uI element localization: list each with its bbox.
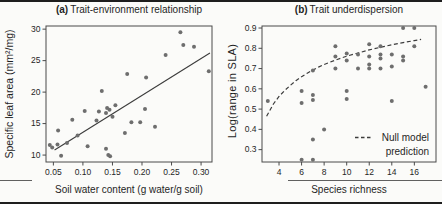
x-tick-label: 0.20 xyxy=(134,167,151,177)
data-point xyxy=(56,129,60,133)
data-point xyxy=(345,59,349,63)
data-point xyxy=(138,120,142,124)
data-point xyxy=(83,109,87,113)
data-point xyxy=(266,99,270,103)
data-point xyxy=(379,44,383,48)
data-point xyxy=(390,52,394,56)
y-tick-label: 0.9 xyxy=(245,23,257,33)
y-tick-label: 25 xyxy=(31,55,41,65)
data-point xyxy=(65,141,69,145)
data-point xyxy=(311,93,315,97)
x-tick-label: 0.15 xyxy=(104,167,121,177)
x-tick-label: 14 xyxy=(387,167,397,177)
data-point xyxy=(424,85,428,89)
y-tick-label: 0.6 xyxy=(245,84,257,94)
data-point xyxy=(379,52,383,56)
x-tick-label: 0.30 xyxy=(193,167,210,177)
y-tick-label: 20 xyxy=(31,87,41,97)
data-point xyxy=(100,89,104,93)
data-point xyxy=(311,138,315,142)
data-point xyxy=(113,103,117,107)
data-point xyxy=(311,69,315,73)
y-tick-label: 0.5 xyxy=(245,104,257,114)
plot-box xyxy=(46,26,212,162)
data-point xyxy=(322,127,326,131)
x-tick-label: 4 xyxy=(277,167,282,177)
data-point xyxy=(345,51,349,55)
data-point xyxy=(95,118,99,122)
data-point xyxy=(401,59,405,63)
x-tick-label: 0.05 xyxy=(45,167,62,177)
data-point xyxy=(367,63,371,67)
y-tick-label: 0.3 xyxy=(245,144,257,154)
data-point xyxy=(111,115,115,119)
data-point xyxy=(401,26,405,30)
data-point xyxy=(333,44,337,48)
legend-label-line1: Null model xyxy=(382,132,429,143)
data-point xyxy=(401,54,405,58)
data-point xyxy=(86,144,90,148)
x-tick-label: 0.10 xyxy=(75,167,92,177)
data-point xyxy=(356,67,360,71)
x-tick-label: 6 xyxy=(299,167,304,177)
data-point xyxy=(390,99,394,103)
data-point xyxy=(333,67,337,71)
data-point xyxy=(379,67,383,71)
data-point xyxy=(300,158,304,162)
data-point xyxy=(311,98,315,102)
y-tick-label: 30 xyxy=(31,24,41,34)
data-point xyxy=(104,111,108,115)
data-point xyxy=(192,45,196,49)
y-tick-label: 0.7 xyxy=(245,63,257,73)
data-point xyxy=(367,67,371,71)
x-tick-label: 16 xyxy=(410,167,420,177)
legend-label-line2: prediction xyxy=(386,146,429,157)
data-point xyxy=(153,125,157,129)
data-point xyxy=(345,97,349,101)
data-point xyxy=(104,147,108,151)
x-tick-label: 10 xyxy=(342,167,352,177)
x-tick-label: 8 xyxy=(322,167,327,177)
data-point xyxy=(143,107,147,111)
null-model-curve xyxy=(267,39,422,116)
data-point xyxy=(108,154,112,158)
x-tick-label: 0.25 xyxy=(163,167,180,177)
data-point xyxy=(333,54,337,58)
data-point xyxy=(181,43,185,47)
y-tick-label: 10 xyxy=(31,150,41,160)
y-tick-label: 0.4 xyxy=(245,124,257,134)
data-point xyxy=(125,72,129,76)
data-point xyxy=(356,52,360,56)
y-tick-label: 0.8 xyxy=(245,43,257,53)
data-point xyxy=(123,131,127,135)
data-point xyxy=(59,154,63,158)
data-point xyxy=(50,146,54,150)
data-point xyxy=(108,108,112,112)
data-point xyxy=(56,142,60,146)
scatter-plots-canvas: 0.050.100.150.200.250.301015202530468101… xyxy=(0,0,442,204)
data-point xyxy=(367,42,371,46)
data-point xyxy=(76,134,80,138)
data-point xyxy=(379,56,383,60)
data-point xyxy=(300,101,304,105)
data-point xyxy=(207,69,211,73)
y-tick-label: 15 xyxy=(31,118,41,128)
x-tick-label: 12 xyxy=(365,167,375,177)
data-point xyxy=(97,110,101,114)
data-point xyxy=(412,26,416,30)
data-point xyxy=(345,89,349,93)
data-point xyxy=(164,53,168,57)
two-panel-scatter-figure: (a)Trait-environment relationship (b)Tra… xyxy=(0,0,442,204)
data-point xyxy=(129,120,133,124)
data-point xyxy=(367,54,371,58)
data-point xyxy=(70,118,74,122)
data-point xyxy=(412,44,416,48)
data-point xyxy=(300,89,304,93)
data-point xyxy=(311,158,315,162)
data-point xyxy=(178,30,182,34)
data-point xyxy=(390,65,394,69)
data-point xyxy=(144,76,148,80)
